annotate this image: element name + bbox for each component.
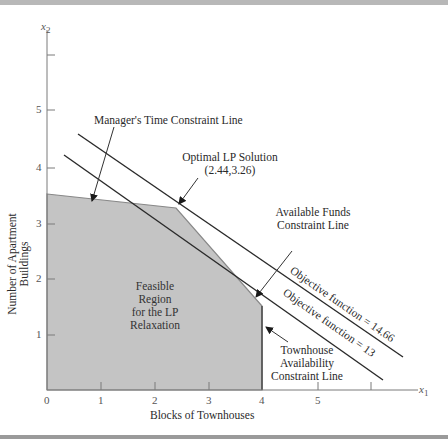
x-axis-title: Blocks of Townhouses: [150, 409, 254, 421]
x-axis-variable: x1: [419, 383, 428, 398]
x-tick-4: 4: [259, 394, 265, 406]
optimal-solution-label: Optimal LP Solution (2.44,3.26): [160, 151, 300, 177]
townhouse-availability-label: Townhouse Availability Constraint Line: [262, 344, 352, 383]
x-tick-3: 3: [206, 394, 212, 406]
x-tick-2: 2: [152, 394, 158, 406]
y-axis-title: Number of Apartment Buildings: [6, 194, 30, 334]
y-tick-5: 5: [36, 103, 42, 115]
bottom-border: [0, 435, 448, 439]
y-tick-3: 3: [36, 217, 42, 229]
feasible-region-label: Feasible Region for the LP Relaxation: [100, 280, 210, 332]
x-tick-1: 1: [98, 394, 104, 406]
managers-time-arrow: [92, 127, 114, 201]
x-tick-0: 0: [44, 394, 50, 406]
lp-graph: [0, 0, 448, 442]
x-tick-5: 5: [315, 394, 321, 406]
optimal-arrow: [179, 178, 198, 204]
managers-time-label: Manager's Time Constraint Line: [94, 114, 243, 127]
y-tick-1: 1: [36, 328, 42, 340]
townhouse-arrow: [266, 327, 288, 342]
y-tick-4: 4: [36, 161, 42, 173]
y-tick-2: 2: [36, 272, 42, 284]
y-axis-variable: x2: [41, 20, 50, 35]
available-funds-label: Available Funds Constraint Line: [258, 206, 368, 232]
